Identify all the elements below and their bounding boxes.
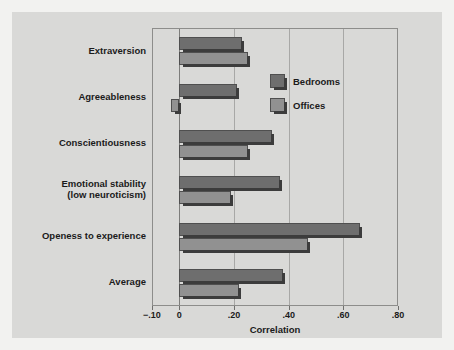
category-label-line: Openess to experience [12,230,146,241]
chart-figure: ExtraversionAgreeablenessConscientiousne… [12,12,442,338]
chart-legend: BedroomsOffices [270,74,340,122]
category-label-line: Extraversion [12,45,146,56]
bar-bedrooms-5 [179,223,359,236]
category-label-line: Agreeableness [12,91,146,102]
bar-bedrooms-4 [179,176,280,189]
category-label-5: Openess to experience [12,230,146,241]
tick-label-2: 0 [177,310,182,320]
bar-shadow-bottom [183,96,238,99]
bar-bedrooms-2 [179,84,236,97]
bar-shadow-bottom [183,64,249,67]
bar-shadow-bottom [183,203,233,206]
legend-label-offices: Offices [293,100,325,111]
tick-label-3: .20 [228,310,241,320]
legend-swatch-bedrooms [270,74,285,88]
legend-swatch-shadow-bottom [274,111,287,114]
category-label-2: Agreeableness [12,91,146,102]
gridline [289,29,290,305]
legend-swatch-shadow-bottom [274,87,287,90]
category-label-line: Emotional stability [12,178,146,189]
zero-line [179,29,180,305]
bar-bedrooms-6 [179,269,283,282]
category-label-4: Emotional stability(low neuroticism) [12,178,146,200]
bar-offices-4 [179,191,231,204]
bar-shadow-bottom [175,111,181,114]
bar-shadow-bottom [183,250,309,253]
bar-offices-6 [179,284,239,297]
legend-item-bedrooms[interactable]: Bedrooms [270,74,340,88]
bar-offices-1 [179,52,247,65]
category-label-1: Extraversion [12,45,146,56]
tick-label-6: .80 [392,310,405,320]
bar-offices-2 [171,99,179,112]
category-label-line: Conscientiousness [12,137,146,148]
tick-label-5: .60 [337,310,350,320]
bar-shadow-bottom [183,157,249,160]
bar-shadow-bottom [183,296,241,299]
tick-label-4: .40 [282,310,295,320]
tick-label-1: −.10 [143,310,161,320]
bar-offices-3 [179,145,247,158]
bar-bedrooms-1 [179,37,242,50]
gridline [234,29,235,305]
category-label-3: Conscientiousness [12,137,146,148]
category-label-6: Average [12,276,146,287]
x-axis-label: Correlation [152,324,398,335]
category-label-line: (low neuroticism) [12,189,146,200]
legend-item-offices[interactable]: Offices [270,98,340,112]
plot-area [152,28,398,306]
gridline [343,29,344,305]
legend-label-bedrooms: Bedrooms [293,76,340,87]
bar-offices-5 [179,238,307,251]
bar-bedrooms-3 [179,130,272,143]
legend-swatch-offices [270,98,285,112]
category-label-line: Average [12,276,146,287]
